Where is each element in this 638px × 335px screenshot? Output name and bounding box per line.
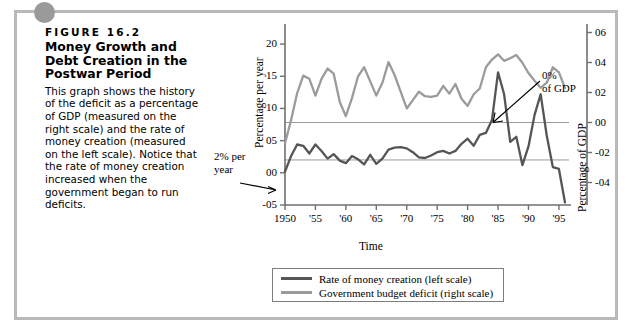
- y-tick-label-left: 00: [251, 166, 277, 178]
- annotation-two-percent-per-year: 2% per year: [214, 150, 245, 175]
- legend-label-budget-deficit: Government budget deficit (right scale): [319, 287, 493, 299]
- y-tick-label-left: 05: [251, 134, 277, 146]
- legend-label-money-creation: Rate of money creation (left scale): [319, 273, 471, 285]
- figure-description: This graph shows the history of the defi…: [45, 85, 201, 211]
- y-tick-label-left: 10: [251, 101, 277, 113]
- y-tick-label-right: 00: [595, 116, 606, 128]
- legend-swatch-money-creation: [281, 277, 312, 280]
- x-tick-label: '90: [513, 212, 543, 224]
- chart-area: [210, 18, 600, 308]
- x-tick-label: '70: [392, 212, 422, 224]
- annotation-zero-percent-of-gdp: 0% of GDP: [542, 69, 576, 94]
- x-tick-label: 1950: [270, 212, 300, 224]
- x-tick-label: '60: [331, 212, 361, 224]
- x-tick-label: '75: [422, 212, 452, 224]
- y-tick-label-left: 15: [251, 69, 277, 81]
- y-tick-label-left: -05: [251, 198, 277, 210]
- series-line: [285, 72, 565, 202]
- y-tick-label-right: 06: [595, 26, 606, 38]
- annotation-arrow-left: [240, 183, 276, 194]
- x-tick-label: '95: [544, 212, 574, 224]
- x-tick-label: '65: [361, 212, 391, 224]
- y-tick-label-right: 02: [595, 86, 606, 98]
- legend-item: Government budget deficit (right scale): [281, 286, 503, 299]
- y-tick-label-right: -04: [595, 176, 610, 188]
- x-tick-label: '85: [483, 212, 513, 224]
- y-tick-label-right: 04: [595, 56, 606, 68]
- figure-page: FIGURE 16.2 Money Growth and Debt Creati…: [0, 0, 638, 335]
- x-tick-label: '80: [453, 212, 483, 224]
- figure-number: FIGURE 16.2: [45, 26, 201, 38]
- chart-legend: Rate of money creation (left scale) Gove…: [272, 268, 504, 302]
- x-axis-title: Time: [359, 240, 383, 252]
- series-line: [285, 54, 565, 143]
- corner-dot-decoration: [34, 2, 55, 23]
- legend-swatch-budget-deficit: [281, 291, 312, 294]
- x-tick-label: '55: [300, 212, 330, 224]
- figure-title: Money Growth and Debt Creation in the Po…: [45, 40, 201, 81]
- y-axis-right-title: Percentage of GDP: [576, 123, 588, 212]
- y-tick-label-left: 20: [251, 37, 277, 49]
- chart-svg: [210, 18, 600, 308]
- legend-item: Rate of money creation (left scale): [281, 272, 503, 285]
- figure-caption: FIGURE 16.2 Money Growth and Debt Creati…: [45, 26, 201, 211]
- annotation-arrow-right: [493, 81, 540, 123]
- y-tick-label-right: -02: [595, 146, 610, 158]
